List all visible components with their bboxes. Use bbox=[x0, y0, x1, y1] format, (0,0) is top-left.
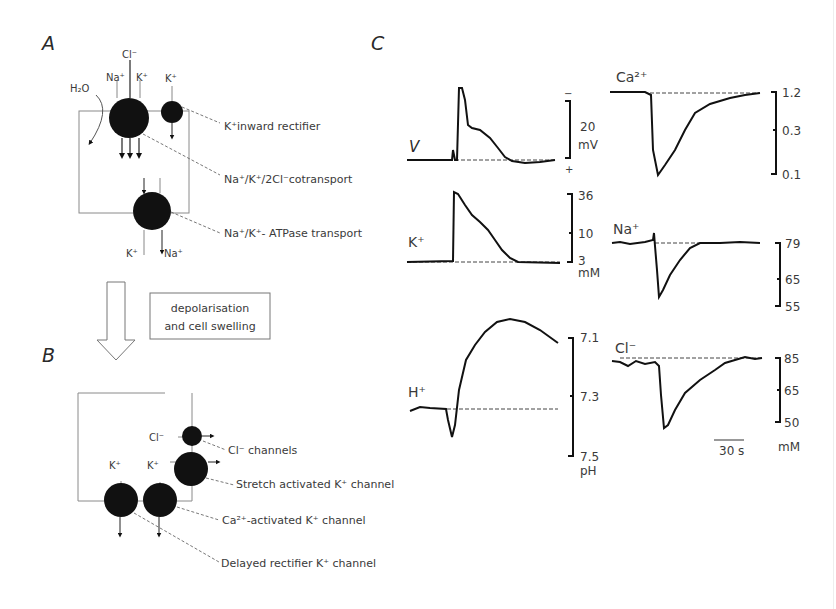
cl-channel-icon bbox=[182, 426, 202, 446]
k-tick-36: 36 bbox=[578, 189, 593, 203]
na-tick-55: 55 bbox=[785, 300, 800, 314]
trace-k-line bbox=[407, 192, 560, 263]
h-tick-7-5: 7.5 bbox=[580, 450, 599, 464]
ion-k1-b: K⁺ bbox=[109, 460, 121, 471]
panel-a: A Cl⁻ Na⁺ K⁺ H₂O K⁺ K⁺ Na⁺ K⁺in bbox=[40, 32, 363, 259]
v-mark-top: − bbox=[564, 88, 572, 99]
trace-h-line bbox=[410, 319, 558, 437]
na-tick-79: 79 bbox=[785, 237, 800, 251]
trace-h-title: H⁺ bbox=[408, 384, 426, 400]
k-unit: mM bbox=[578, 266, 600, 280]
ion-cl: Cl⁻ bbox=[122, 49, 137, 60]
ion-k2: K⁺ bbox=[165, 73, 177, 84]
delayed-rectifier-k-channel-icon bbox=[104, 483, 138, 517]
transition-arrow: depolarisation and cell swelling bbox=[97, 282, 270, 360]
ion-na: Na⁺ bbox=[106, 72, 125, 83]
h-tick-7-1: 7.1 bbox=[580, 331, 599, 345]
k-tick-10: 10 bbox=[578, 227, 593, 241]
k-inward-rectifier-icon bbox=[161, 101, 183, 123]
ion-k: K⁺ bbox=[136, 72, 148, 83]
label-cl-channels: Cl⁻ channels bbox=[228, 444, 298, 457]
trace-ca-title: Ca²⁺ bbox=[616, 69, 647, 85]
trace-k: K⁺ 36 10 3 mM bbox=[407, 189, 600, 280]
label-k-inward-rectifier: K⁺inward rectifier bbox=[224, 120, 321, 133]
ca-tick-0-1: 0.1 bbox=[782, 168, 801, 182]
time-scale-label: 30 s bbox=[719, 444, 744, 458]
panel-b: B Cl⁻ K⁺ K⁺ Cl⁻ channels Stretch activat… bbox=[42, 344, 394, 570]
ca-activated-k-channel-icon bbox=[143, 483, 177, 517]
cl-tick-65: 65 bbox=[784, 384, 799, 398]
trace-v: V − + 20 mV bbox=[407, 88, 599, 175]
stretch-k-channel-icon bbox=[174, 452, 208, 486]
panel-a-label: A bbox=[40, 32, 55, 54]
trace-cl: Cl⁻ 85 65 50 mM 30 s bbox=[612, 340, 800, 458]
panel-c: C V − + 20 mV K⁺ 36 10 3 mM H⁺ bbox=[371, 32, 801, 478]
cl-unit: mM bbox=[778, 440, 800, 454]
ca-tick-1-2: 1.2 bbox=[782, 86, 801, 100]
trace-na-title: Na⁺ bbox=[613, 221, 639, 237]
label-delayed-rectifier: Delayed rectifier K⁺ channel bbox=[221, 557, 376, 570]
transition-line1: depolarisation bbox=[171, 302, 249, 315]
panel-c-label: C bbox=[371, 32, 385, 54]
trace-h: H⁺ 7.1 7.3 7.5 pH bbox=[408, 319, 599, 478]
v-scale-value: 20 bbox=[580, 120, 595, 134]
figure-canvas: A Cl⁻ Na⁺ K⁺ H₂O K⁺ K⁺ Na⁺ K⁺in bbox=[0, 0, 836, 609]
label-cotransport: Na⁺/K⁺/2Cl⁻cotransport bbox=[224, 173, 353, 186]
trace-cl-line bbox=[612, 357, 762, 428]
ion-h2o: H₂O bbox=[70, 83, 90, 94]
h-unit: pH bbox=[580, 464, 597, 478]
panel-b-label: B bbox=[42, 344, 55, 366]
trace-v-line bbox=[407, 88, 555, 163]
trace-ca: Ca²⁺ 1.2 0.3 0.1 bbox=[610, 69, 801, 182]
ion-k-bottom: K⁺ bbox=[126, 248, 138, 259]
ion-cl-b: Cl⁻ bbox=[149, 432, 164, 443]
atpase-icon bbox=[133, 192, 171, 230]
cotransporter-icon bbox=[109, 98, 149, 138]
h-tick-7-3: 7.3 bbox=[580, 390, 599, 404]
cell-outline-b bbox=[78, 393, 192, 501]
trace-na: Na⁺ 79 65 55 bbox=[612, 221, 800, 314]
trace-v-title: V bbox=[409, 138, 421, 156]
transition-line2: and cell swelling bbox=[164, 320, 255, 333]
ion-na-bottom: Na⁺ bbox=[164, 248, 183, 259]
trace-ca-line bbox=[610, 92, 760, 175]
cl-tick-50: 50 bbox=[784, 416, 799, 430]
trace-cl-title: Cl⁻ bbox=[615, 340, 636, 356]
cl-tick-85: 85 bbox=[784, 352, 799, 366]
label-ca-k: Ca²⁺-activated K⁺ channel bbox=[222, 514, 366, 527]
trace-k-title: K⁺ bbox=[408, 234, 425, 250]
v-scale-unit: mV bbox=[578, 138, 599, 152]
na-tick-65: 65 bbox=[785, 273, 800, 287]
label-stretch-k: Stretch activated K⁺ channel bbox=[236, 478, 394, 491]
ion-k2-b: K⁺ bbox=[147, 460, 159, 471]
down-arrow-icon bbox=[97, 282, 135, 360]
ca-tick-0-3: 0.3 bbox=[782, 124, 801, 138]
v-mark-bottom: + bbox=[565, 164, 573, 175]
label-atpase: Na⁺/K⁺- ATPase transport bbox=[224, 227, 363, 240]
